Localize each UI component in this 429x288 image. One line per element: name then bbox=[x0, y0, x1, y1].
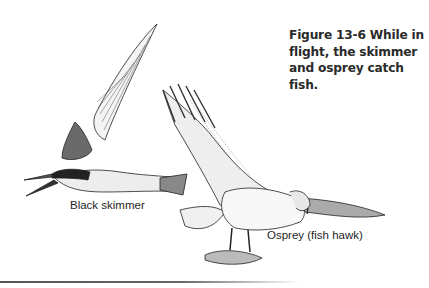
bird-illustrations bbox=[0, 0, 429, 288]
bottom-rule-divider bbox=[0, 281, 300, 283]
black-skimmer-label: Black skimmer bbox=[70, 199, 145, 211]
black-skimmer-illustration bbox=[24, 24, 187, 196]
osprey-label: Osprey (fish hawk) bbox=[267, 229, 363, 241]
